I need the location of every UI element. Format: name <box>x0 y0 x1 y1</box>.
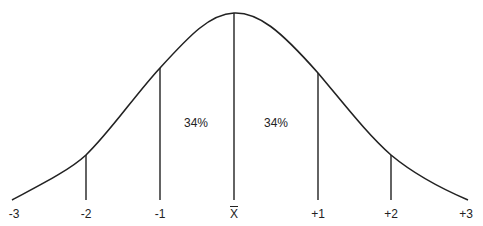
axis-label-minus-1: -1 <box>155 207 166 221</box>
axis-label-plus-1: +1 <box>311 207 325 221</box>
axis-label-plus-3: +3 <box>459 207 473 221</box>
axis-label-minus-2: -2 <box>81 207 92 221</box>
axis-label-plus-2: +2 <box>384 207 398 221</box>
bell-curve-figure <box>0 0 483 226</box>
bell-curve <box>12 13 468 200</box>
axis-label-minus-3: -3 <box>9 207 20 221</box>
region-label-right: 34% <box>264 116 288 130</box>
region-label-left: 34% <box>184 116 208 130</box>
axis-label-mean: X <box>230 207 238 221</box>
